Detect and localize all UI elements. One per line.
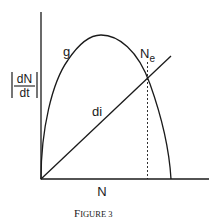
- figure-caption: FIGURE 3: [74, 207, 112, 219]
- svg-text:dN: dN: [17, 72, 32, 86]
- x-axis-label: N: [97, 184, 106, 199]
- dieoff-line-di: [41, 56, 171, 179]
- y-axis-label: dN dt: [12, 72, 37, 100]
- dieoff-label: di: [92, 104, 102, 119]
- equilibrium-label: Ne: [140, 46, 155, 64]
- growth-label: g: [63, 44, 70, 59]
- svg-text:dt: dt: [19, 86, 30, 100]
- figure-3-diagram: dN dt g di Ne N FIGURE 3: [0, 0, 221, 223]
